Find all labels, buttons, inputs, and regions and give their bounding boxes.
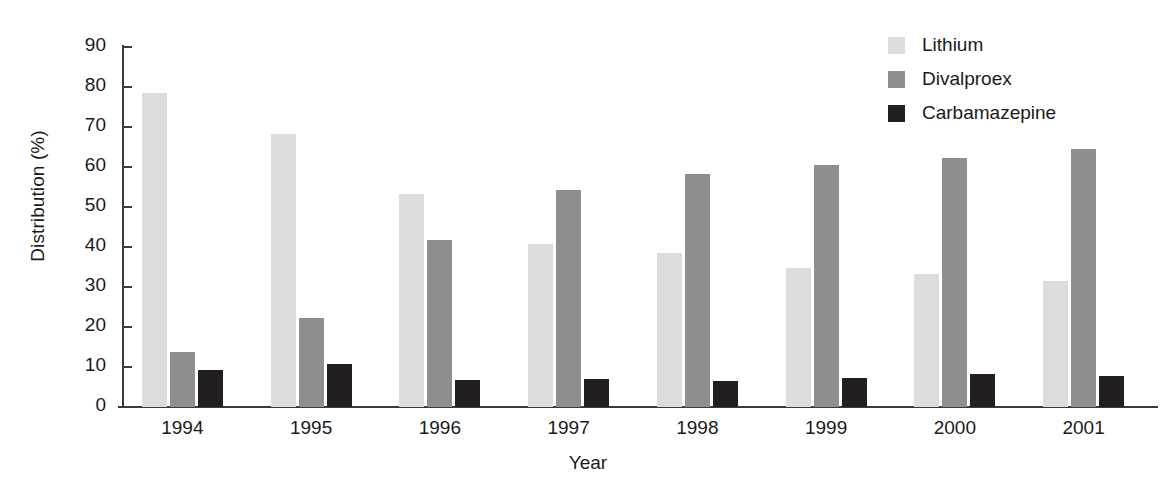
bar-lithium-1999 (786, 268, 811, 407)
y-tick-mark (123, 166, 132, 168)
bar-carbamazepine-1997 (584, 379, 609, 407)
legend-label: Lithium (922, 34, 983, 56)
x-tick-label-1999: 1999 (776, 417, 876, 439)
bar-carbamazepine-1999 (842, 378, 867, 407)
legend-swatch-icon (888, 37, 905, 54)
x-axis-title: Year (0, 452, 1176, 474)
y-tick-mark (123, 286, 132, 288)
y-tick-label: 0 (95, 394, 106, 416)
y-axis-title: Distribution (%) (27, 106, 49, 286)
bar-lithium-1997 (528, 244, 553, 407)
bar-divalproex-1997 (556, 190, 581, 407)
x-tick-label-1995: 1995 (261, 417, 361, 439)
x-tick-label-2000: 2000 (905, 417, 1005, 439)
bar-carbamazepine-1998 (713, 381, 738, 407)
chart-legend: LithiumDivalproexCarbamazepine (888, 28, 1056, 130)
x-tick-label-1996: 1996 (390, 417, 490, 439)
y-tick-label: 30 (85, 274, 106, 296)
legend-swatch-icon (888, 71, 905, 88)
y-tick-label: 60 (85, 154, 106, 176)
y-tick-label: 50 (85, 194, 106, 216)
bar-group (528, 47, 609, 407)
bar-lithium-2000 (914, 274, 939, 407)
y-tick-label: 70 (85, 114, 106, 136)
x-tick-label-1994: 1994 (132, 417, 232, 439)
y-tick-mark (123, 86, 132, 88)
bar-group (142, 47, 223, 407)
legend-item-divalproex: Divalproex (888, 62, 1056, 96)
y-tick-label: 20 (85, 314, 106, 336)
bar-group (786, 47, 867, 407)
x-tick-label-1997: 1997 (519, 417, 619, 439)
bar-lithium-1995 (271, 134, 296, 407)
legend-label: Divalproex (922, 68, 1012, 90)
y-tick-label: 90 (85, 34, 106, 56)
bar-divalproex-1995 (299, 318, 324, 407)
bar-carbamazepine-1996 (455, 380, 480, 407)
bar-divalproex-1999 (814, 165, 839, 407)
y-tick-mark (123, 206, 132, 208)
legend-swatch-icon (888, 105, 905, 122)
bar-carbamazepine-1994 (198, 370, 223, 407)
bar-divalproex-2000 (942, 158, 967, 407)
bar-divalproex-1994 (170, 352, 195, 407)
bar-lithium-2001 (1043, 281, 1068, 407)
y-tick-mark (123, 126, 132, 128)
y-tick-mark (123, 46, 132, 48)
y-tick-mark (123, 246, 132, 248)
x-tick-label-1998: 1998 (647, 417, 747, 439)
y-tick-label: 10 (85, 354, 106, 376)
legend-label: Carbamazepine (922, 102, 1056, 124)
y-tick-mark (123, 366, 132, 368)
bar-carbamazepine-2001 (1099, 376, 1124, 407)
bar-lithium-1998 (657, 253, 682, 407)
bar-group (399, 47, 480, 407)
bar-lithium-1994 (142, 93, 167, 407)
bar-carbamazepine-1995 (327, 364, 352, 407)
bar-lithium-1996 (399, 194, 424, 407)
bar-chart-figure: Distribution (%) 0102030405060708090 Yea… (0, 0, 1176, 489)
bar-divalproex-1996 (427, 240, 452, 407)
y-tick-mark (123, 406, 132, 408)
bar-divalproex-2001 (1071, 149, 1096, 407)
bar-divalproex-1998 (685, 174, 710, 407)
legend-item-lithium: Lithium (888, 28, 1056, 62)
x-tick-label-2001: 2001 (1034, 417, 1134, 439)
y-tick-label: 40 (85, 234, 106, 256)
y-tick-mark (123, 326, 132, 328)
bar-group (657, 47, 738, 407)
y-tick-label: 80 (85, 74, 106, 96)
bar-group (271, 47, 352, 407)
legend-item-carbamazepine: Carbamazepine (888, 96, 1056, 130)
bar-carbamazepine-2000 (970, 374, 995, 407)
